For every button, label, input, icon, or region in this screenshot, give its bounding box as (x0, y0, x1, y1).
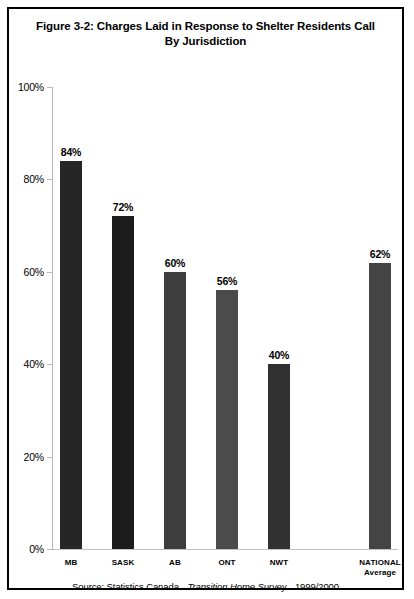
bar-nwt[interactable] (268, 364, 290, 549)
bar-mb[interactable] (60, 161, 82, 549)
source-note: Source: Statistics Canada Transition Hom… (9, 581, 402, 592)
category-label-line-2: Average (345, 568, 414, 578)
source-year: 1999/2000 (295, 581, 339, 592)
bar-column[interactable]: 60% (164, 87, 186, 549)
bar-column[interactable]: 40% (268, 87, 290, 549)
x-axis-category-label: NATIONALAverage (345, 558, 414, 578)
bar-column[interactable]: 62% (369, 87, 391, 549)
category-label-line-1: NATIONAL (345, 558, 414, 568)
y-axis-tick-label: 20% (4, 452, 44, 462)
bar-column[interactable]: 72% (112, 87, 134, 549)
bar-column[interactable]: 56% (216, 87, 238, 549)
y-axis-tick (47, 179, 53, 180)
bar-value-label: 72% (100, 201, 146, 213)
y-axis-tick-label: 100% (4, 82, 44, 92)
bar-ont[interactable] (216, 290, 238, 549)
y-axis-tick (47, 457, 53, 458)
y-axis-tick-label: 60% (4, 267, 44, 277)
x-axis-baseline (52, 549, 398, 550)
y-axis-tick (47, 272, 53, 273)
bar-ab[interactable] (164, 272, 186, 549)
y-axis-tick (47, 364, 53, 365)
y-axis-tick-label: 0% (4, 544, 44, 554)
y-axis-tick (47, 549, 53, 550)
bar-value-label: 62% (357, 248, 403, 260)
y-axis-tick-label: 80% (4, 174, 44, 184)
bar-value-label: 84% (48, 146, 94, 158)
bar-value-label: 60% (152, 257, 198, 269)
figure-frame: Figure 3-2: Charges Laid in Response to … (7, 7, 404, 590)
bar-column[interactable]: 84% (60, 87, 82, 549)
y-axis-tick (47, 87, 53, 88)
source-publication: Transition Home Survey (187, 581, 286, 592)
bar-value-label: 56% (204, 275, 250, 287)
y-axis-tick-label: 40% (4, 359, 44, 369)
category-label-line-1: NWT (244, 558, 314, 568)
bar-sask[interactable] (112, 216, 134, 549)
bar-value-label: 40% (256, 349, 302, 361)
source-prefix: Source: Statistics Canada (72, 581, 179, 592)
x-axis-category-label: NWT (244, 558, 314, 568)
plot-area: 100%80%60%40%20%0% 84%MB72%SASK60%AB56%O… (9, 9, 406, 592)
bar-national-average[interactable] (369, 263, 391, 549)
